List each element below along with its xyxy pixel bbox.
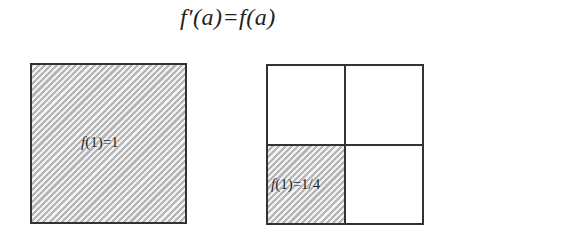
formula-heading: f′(a)=f(a)	[180, 4, 276, 31]
right-square-2x2-grid: f(1)=1/4	[266, 64, 424, 225]
horizontal-divider	[268, 144, 422, 146]
left-square-fully-shaded: f(1)=1	[30, 63, 187, 224]
left-square-label: f(1)=1	[81, 134, 119, 151]
shaded-quarter-cell: f(1)=1/4	[268, 146, 344, 223]
right-square-label: f(1)=1/4	[271, 176, 320, 193]
